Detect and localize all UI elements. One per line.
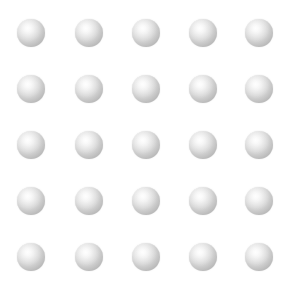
sphere-r2-c1 [17,75,45,103]
sphere-r2-c5 [245,75,273,103]
sphere-r5-c1 [17,243,45,271]
sphere-r2-c2 [75,75,103,103]
sphere-r1-c4 [189,19,217,47]
sphere-r4-c3 [132,187,160,215]
sphere-r5-c5 [245,243,273,271]
sphere-r4-c2 [75,187,103,215]
sphere-r3-c2 [75,131,103,159]
sphere-r1-c1 [17,19,45,47]
sphere-r3-c4 [189,131,217,159]
sphere-r1-c5 [245,19,273,47]
sphere-r5-c4 [189,243,217,271]
sphere-r5-c2 [75,243,103,271]
sphere-r3-c3 [132,131,160,159]
sphere-r5-c3 [132,243,160,271]
sphere-r2-c4 [189,75,217,103]
sphere-r3-c1 [17,131,45,159]
sphere-r1-c2 [75,19,103,47]
sphere-r1-c3 [132,19,160,47]
sphere-r2-c3 [132,75,160,103]
sphere-r4-c4 [189,187,217,215]
sphere-r3-c5 [245,131,273,159]
sphere-r4-c5 [245,187,273,215]
sphere-r4-c1 [17,187,45,215]
sphere-grid-canvas [0,0,292,286]
